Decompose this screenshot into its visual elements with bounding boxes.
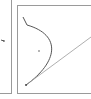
end-point bbox=[25, 84, 27, 86]
diagram-canvas bbox=[0, 0, 91, 99]
left-arrow-icon bbox=[1, 40, 5, 42]
center-point bbox=[38, 50, 39, 51]
tangent-line bbox=[26, 37, 91, 85]
bezier-curve bbox=[23, 17, 52, 85]
